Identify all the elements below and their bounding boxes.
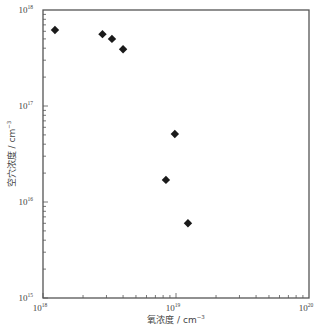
x-tick-label: 1020 [299,302,314,313]
diamond-marker [51,26,59,34]
diamond-marker [98,30,106,38]
axis-ticks [43,14,303,298]
scatter-chart: 1018101910201015101610171018 氧浓度 / cm−3 … [0,0,320,332]
y-tick-label: 1015 [19,292,34,303]
plot-frame [43,10,309,298]
y-tick-label: 1016 [19,196,34,207]
y-tick-label: 1017 [19,100,34,111]
x-tick-label: 1018 [33,302,48,313]
tick-labels: 1018101910201015101610171018 [19,4,314,313]
x-tick-label: 1019 [166,302,181,313]
diamond-marker [108,35,116,43]
y-axis-title: 空穴浓度 / cm−3 [6,120,17,187]
diamond-marker [184,219,192,227]
data-points [51,26,192,228]
diamond-marker [162,176,170,184]
diamond-marker [119,45,127,53]
x-axis-title: 氧浓度 / cm−3 [147,314,205,325]
diamond-marker [171,130,179,138]
y-tick-label: 1018 [19,4,34,15]
